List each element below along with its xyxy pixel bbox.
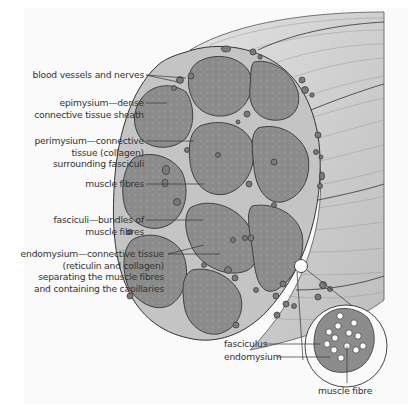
inset-label-endomysium: endomysium	[224, 351, 281, 363]
label-muscle-fibres: muscle fibres	[85, 178, 144, 190]
label-perimysium: perimysium—connective tissue (collagen) …	[34, 135, 144, 170]
label-fasciculi: fasciculi—bundles of muscle fibres	[54, 214, 145, 237]
label-epimysium: epimysium—dense connective tissue sheath	[34, 97, 144, 120]
label-endomysium: endomysium—connective tissue (reticulin …	[21, 248, 164, 294]
inset-label-fasciculus: fasciculus	[224, 338, 267, 350]
label-blood-vessels-and-nerves: blood vessels and nerves	[33, 69, 145, 81]
inset-label-muscle-fibre: muscle fibre	[318, 385, 372, 397]
highlighted-fasciculus	[295, 260, 308, 273]
muscle-cross-section-diagram	[0, 0, 408, 404]
